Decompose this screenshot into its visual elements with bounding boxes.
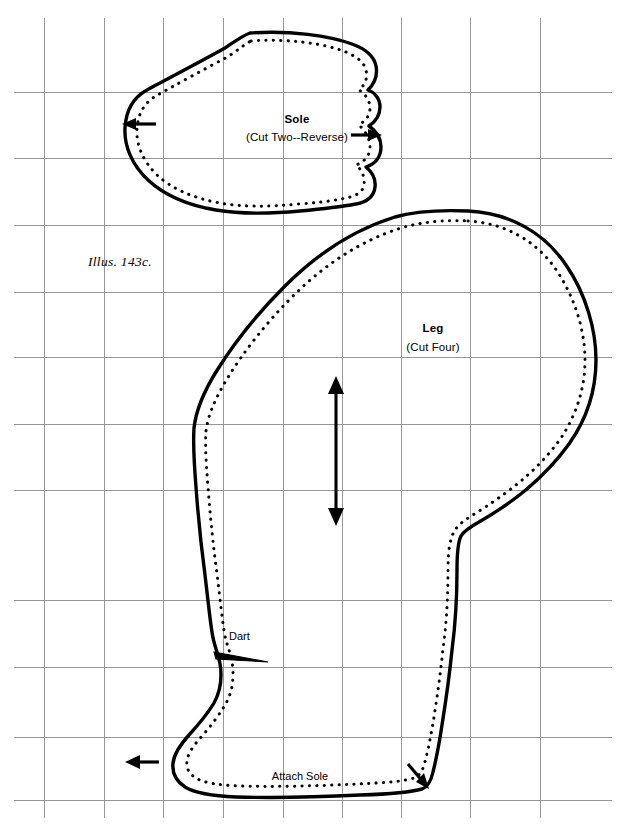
leg-toe-notch-head <box>125 755 140 769</box>
dart-label: Dart <box>229 631 250 643</box>
leg-cutting-line <box>173 211 596 798</box>
pattern-piece-sole <box>122 32 382 213</box>
leg-piece-subtitle: (Cut Four) <box>406 341 459 353</box>
dart-wedge-shape <box>214 652 268 662</box>
sole-piece-subtitle: (Cut Two--Reverse) <box>246 131 348 143</box>
leg-seam-line <box>187 221 585 787</box>
sole-piece-title: Sole <box>284 113 309 125</box>
leg-piece-title: Leg <box>422 322 443 334</box>
pattern-piece-leg <box>125 211 596 798</box>
sole-notch-right <box>351 129 382 141</box>
pattern-page: Illus. 143c. Sole (Cut Two--Reverse) Leg… <box>0 0 617 826</box>
leg-toe-notch <box>125 755 159 769</box>
sole-seam-line <box>137 40 370 206</box>
leg-heel-notch <box>408 764 429 789</box>
leg-dart-wedge <box>214 652 268 662</box>
attach-sole-label: Attach Sole <box>272 771 328 783</box>
illustration-caption: Illus. 143c. <box>88 255 152 269</box>
